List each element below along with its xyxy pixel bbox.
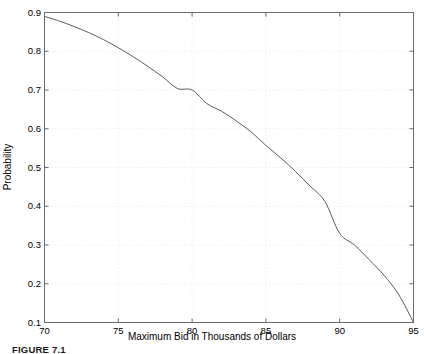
chart-canvas — [0, 0, 424, 354]
grid-lines — [45, 13, 414, 323]
figure-container: 0.10.20.30.40.50.60.70.80.9 707580859095… — [0, 0, 424, 354]
y-axis-tick-label: 0.4 — [16, 202, 41, 212]
y-axis-tick-label: 0.5 — [16, 163, 41, 173]
x-axis-title: Maximum Bid in Thousands of Dollars — [0, 332, 424, 342]
series-line-probability — [45, 16, 414, 322]
y-axis-title: Probability — [3, 144, 13, 191]
y-axis-tick-label: 0.7 — [16, 85, 41, 95]
y-axis-tick-label: 0.8 — [16, 47, 41, 57]
y-axis-tick-label: 0.6 — [16, 124, 41, 134]
y-axis-tick-label: 0.9 — [16, 8, 41, 18]
y-axis-tick-label: 0.3 — [16, 240, 41, 250]
data-series — [45, 16, 414, 322]
figure-caption: FIGURE 7.1 — [12, 345, 66, 354]
y-axis-tick-label: 0.1 — [16, 318, 41, 328]
y-axis-tick-label: 0.2 — [16, 279, 41, 289]
y-axis-title-wrapper: Probability — [1, 0, 15, 334]
